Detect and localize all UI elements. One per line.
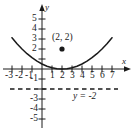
x-tick-label-2: 2: [60, 71, 65, 81]
x-tick-label-5: 5: [90, 71, 95, 81]
y-tick-label-neg1: -1: [30, 74, 38, 84]
x-tick-label-7: 7: [110, 71, 115, 81]
x-axis-label: x: [122, 57, 126, 66]
x-tick-label-3: 3: [70, 71, 75, 81]
y-tick-label-neg5: -5: [30, 114, 38, 124]
focus-point-marker: [59, 46, 64, 51]
x-tick-label-neg3: -3: [5, 71, 13, 81]
parabola-graph-figure: -3 -2 -1 1 2 3 4 5 6 7 5 4 3 2 -1 -3 -4 …: [0, 0, 134, 131]
x-tick-label-neg2: -2: [15, 71, 23, 81]
y-axis-label: y: [45, 3, 49, 12]
x-tick-label-6: 6: [100, 71, 105, 81]
x-tick-label-1: 1: [50, 71, 55, 81]
x-tick-label-4: 4: [80, 71, 85, 81]
coordinate-plane-svg: [0, 0, 134, 131]
focus-point-label: (2, 2): [52, 33, 73, 43]
y-tick-label-2: 2: [32, 44, 37, 54]
directrix-equation-label: y = -2: [73, 92, 96, 102]
